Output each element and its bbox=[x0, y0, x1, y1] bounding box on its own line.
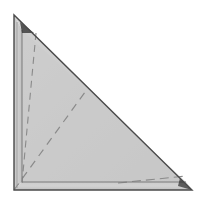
triangle-drawing-svg bbox=[0, 0, 212, 207]
technical-drawing-canvas bbox=[0, 0, 212, 207]
bottom-flange-band bbox=[14, 182, 192, 190]
left-flange-band bbox=[14, 15, 22, 190]
